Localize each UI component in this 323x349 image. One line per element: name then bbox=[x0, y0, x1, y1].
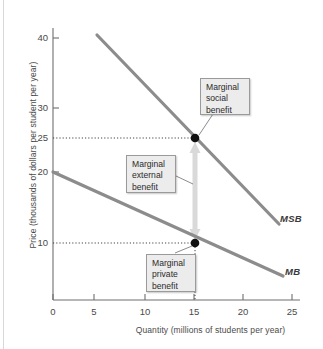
callout-external-line-3: benefit bbox=[132, 182, 171, 193]
y-tick-label-40: 40 bbox=[28, 32, 48, 43]
external-callout-leader bbox=[176, 176, 193, 184]
private-callout-leader bbox=[175, 246, 192, 253]
social-callout-leader bbox=[199, 114, 213, 135]
x-tick-label-25: 25 bbox=[282, 306, 302, 317]
external-benefit-arrow bbox=[190, 142, 201, 240]
x-tick-label-0: 0 bbox=[43, 306, 63, 317]
callout-social-line-1: Marginal bbox=[206, 82, 245, 93]
msb-curve bbox=[97, 35, 279, 224]
x-axis-label: Quantity (millions of students per year) bbox=[103, 325, 318, 335]
marginal-private-benefit-point bbox=[191, 239, 200, 248]
x-tick-label-5: 5 bbox=[84, 306, 104, 317]
y-axis-label: Price (thousands of dollars per student … bbox=[28, 55, 38, 255]
callout-external-line-1: Marginal bbox=[132, 159, 171, 170]
curve-label-mb: MB bbox=[285, 266, 300, 277]
x-tick-label-10: 10 bbox=[135, 306, 155, 317]
curve-label-msb: MSB bbox=[280, 213, 302, 224]
callout-marginal-private-benefit: Marginal private benefit bbox=[146, 254, 196, 292]
callout-social-line-3: benefit bbox=[206, 105, 245, 116]
figure-container: 40 30 25 20 10 0 5 10 15 20 25 Price (th… bbox=[0, 0, 323, 349]
marginal-social-benefit-point bbox=[191, 134, 200, 143]
callout-marginal-external-benefit: Marginal external benefit bbox=[126, 155, 176, 193]
x-tick-label-15: 15 bbox=[184, 306, 204, 317]
callout-private-line-2: private bbox=[152, 269, 191, 280]
callout-marginal-social-benefit: Marginal social benefit bbox=[200, 78, 250, 115]
x-tick-label-20: 20 bbox=[233, 306, 253, 317]
callout-private-line-3: benefit bbox=[152, 281, 191, 292]
callout-private-line-1: Marginal bbox=[152, 258, 191, 269]
callout-external-line-2: external bbox=[132, 170, 171, 181]
callout-social-line-2: social bbox=[206, 93, 245, 104]
